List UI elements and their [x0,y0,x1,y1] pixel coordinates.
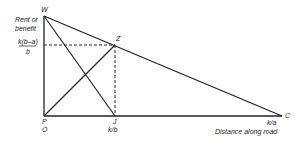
x-axis-label: Distance along road [215,128,277,136]
y-tick-denominator: b [26,48,30,56]
y-tick-numerator: k(b–a) [18,38,38,46]
point-o-label: O [42,126,47,134]
x-tick-c: k/a [267,119,276,127]
point-w-label: W [41,6,48,14]
x-tick-j: k/b [108,126,117,134]
y-axis-label-2: benefit [15,25,36,33]
y-axis-label-1: Rent or [15,16,38,24]
line-pz [44,45,115,116]
point-z-label: Z [116,35,120,43]
point-c-label: C [285,112,290,120]
point-j-label: J [113,118,117,126]
point-p-label: P [42,118,47,126]
